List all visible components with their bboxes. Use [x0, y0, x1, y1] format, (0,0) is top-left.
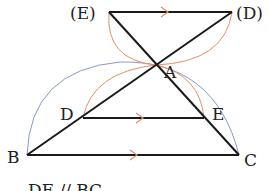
- label-eprime: (E): [70, 3, 96, 23]
- label-b: B: [7, 147, 20, 167]
- blue-arc-bac: [27, 62, 239, 155]
- label-d: D: [60, 104, 74, 124]
- label-e: E: [212, 104, 224, 124]
- label-dprime: (D): [236, 3, 263, 23]
- label-a: A: [163, 62, 177, 82]
- label-c: C: [244, 150, 257, 170]
- geometry-diagram: (E) (D) A D E B C DE // BC: [0, 0, 269, 191]
- caption-de-parallel-bc: DE // BC: [28, 180, 102, 191]
